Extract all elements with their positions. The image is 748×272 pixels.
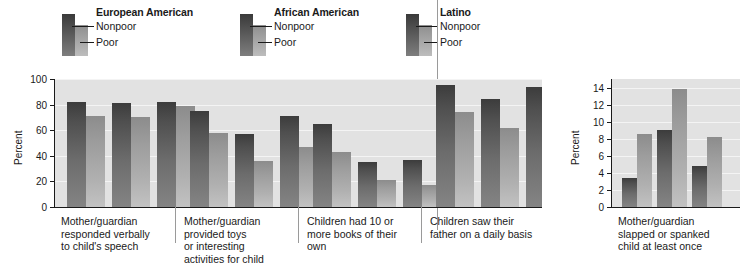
bar — [209, 133, 228, 207]
bar — [403, 160, 422, 207]
bar — [190, 111, 209, 207]
bar — [481, 99, 500, 207]
y-axis-tick — [607, 190, 611, 191]
bar — [112, 103, 131, 207]
bar — [358, 162, 377, 207]
bar — [254, 161, 273, 207]
bar — [526, 87, 542, 207]
bar — [657, 130, 672, 207]
y-axis-line — [611, 79, 612, 208]
y-axis-tick-label: 12 — [574, 99, 604, 110]
bar — [500, 128, 519, 207]
bar — [280, 116, 299, 207]
chart-figure: European American Nonpoor Poor African A… — [0, 0, 748, 272]
bar — [131, 117, 150, 207]
y-axis-tick-label: 14 — [574, 82, 604, 93]
bar — [622, 178, 637, 207]
y-axis-tick — [607, 156, 611, 157]
y-axis-tick — [607, 139, 611, 140]
bar — [313, 124, 332, 207]
bar — [332, 152, 351, 207]
y-axis-tick — [607, 207, 611, 208]
bar — [67, 102, 86, 207]
y-axis-tick-label: 2 — [574, 184, 604, 195]
y-axis-tick-label: 10 — [574, 116, 604, 127]
bar — [637, 134, 652, 207]
bar — [455, 112, 474, 207]
y-axis-tick — [607, 173, 611, 174]
bar — [377, 180, 396, 207]
x-axis-line — [611, 207, 740, 208]
bar — [707, 137, 722, 207]
plot-area — [612, 79, 740, 207]
y-axis-tick — [607, 122, 611, 123]
bar — [436, 85, 455, 207]
x-axis-category-label: Mother/guardian slapped or spanked child… — [618, 215, 738, 253]
bar — [235, 134, 254, 207]
y-axis-tick-label: 0 — [574, 202, 604, 213]
y-axis-tick-label: 4 — [574, 167, 604, 178]
bar — [157, 102, 176, 207]
y-axis-tick — [607, 105, 611, 106]
bar — [692, 166, 707, 207]
y-axis-tick — [607, 88, 611, 89]
bar — [86, 116, 105, 207]
y-axis-title: Percent — [570, 131, 581, 165]
bar — [672, 89, 687, 207]
